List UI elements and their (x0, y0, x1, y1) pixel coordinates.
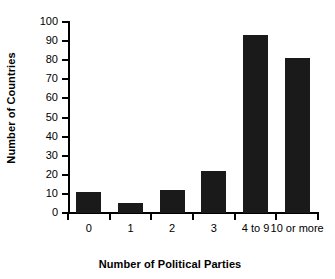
y-axis-title-text: Number of Countries (5, 52, 17, 163)
bar (160, 190, 185, 213)
y-axis-tick-label: 50 (20, 112, 58, 123)
y-axis-tick-label: 40 (20, 131, 58, 142)
bar (243, 35, 268, 213)
bar (76, 192, 101, 213)
y-axis-tick-label: 90 (20, 35, 58, 46)
x-axis-tick-mark (150, 214, 152, 220)
y-axis-tick-label: 80 (20, 54, 58, 65)
x-axis-tick-mark (317, 214, 319, 220)
y-axis-tick-label: 30 (20, 150, 58, 161)
y-axis-tick-label: 0 (20, 207, 58, 218)
y-axis-tick-label: 20 (20, 169, 58, 180)
y-axis-title: Number of Countries (0, 0, 22, 215)
x-axis-title: Number of Political Parties (40, 258, 300, 270)
plot-area (68, 22, 318, 213)
bar-chart-figure: Number of Countries 01020304050607080901… (0, 0, 335, 279)
bar (118, 203, 143, 213)
y-axis-tick-label: 100 (20, 16, 58, 27)
x-axis-tick-mark (234, 214, 236, 220)
x-axis-tick-mark (275, 214, 277, 220)
y-axis-tick-label: 70 (20, 73, 58, 84)
x-axis-tick-mark (109, 214, 111, 220)
bar (201, 171, 226, 213)
y-axis-tick-label: 10 (20, 188, 58, 199)
x-axis-tick-mark (67, 214, 69, 220)
bar (285, 58, 310, 213)
x-axis-tick-label: 10 or more (269, 222, 325, 235)
x-axis-tick-mark (192, 214, 194, 220)
y-axis-tick-label: 60 (20, 92, 58, 103)
